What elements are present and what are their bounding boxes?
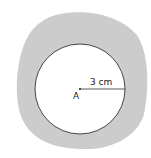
diagram: 3 cm A: [0, 0, 151, 158]
center-label: A: [73, 91, 80, 101]
radius-label: 3 cm: [90, 77, 112, 87]
